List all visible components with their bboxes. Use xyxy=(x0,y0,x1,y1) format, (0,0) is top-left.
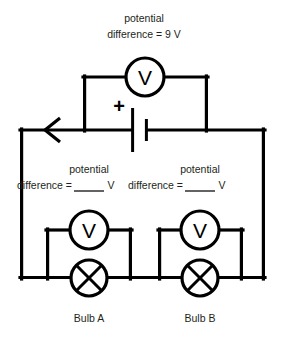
voltmeter-branch-b-glyph: V xyxy=(193,219,207,242)
branch-b-label-line1: potential xyxy=(180,163,220,175)
branch-a-label-line2-suffix: V xyxy=(107,179,114,191)
voltmeter-branch-a-glyph: V xyxy=(82,219,96,242)
bulb-b-label: Bulb B xyxy=(185,312,216,324)
source-label-line2: difference = 9 V xyxy=(107,28,181,40)
battery-polarity-label: + xyxy=(113,95,125,117)
source-label-line1: potential xyxy=(124,12,164,24)
circuit-schematic: potential difference = 9 V V + potenti xyxy=(0,0,285,341)
branch-b-label-line2-suffix: V xyxy=(218,179,225,191)
bulb-a-label: Bulb A xyxy=(74,312,104,324)
circuit-diagram-page: potential difference = 9 V V + potenti xyxy=(0,0,285,341)
branch-a-label-line1: potential xyxy=(69,163,109,175)
voltmeter-source-glyph: V xyxy=(138,66,152,89)
branch-b-label-line2-prefix: difference = xyxy=(128,179,183,191)
branch-a-label-line2-prefix: difference = xyxy=(17,179,72,191)
